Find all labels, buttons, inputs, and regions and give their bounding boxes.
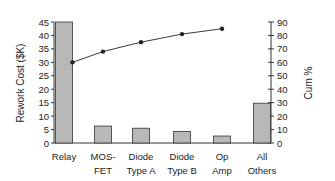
right-y-axis: 0102030405060708090 bbox=[268, 17, 288, 149]
right-tick-label: 70 bbox=[277, 43, 288, 54]
right-tick-label: 30 bbox=[277, 97, 288, 108]
bar bbox=[95, 126, 112, 143]
left-tick-label: 10 bbox=[38, 111, 49, 122]
bar bbox=[254, 103, 271, 143]
line-point bbox=[101, 49, 105, 53]
left-axis-title: Rework Cost ($K) bbox=[15, 44, 26, 123]
bars bbox=[56, 22, 271, 143]
right-tick-label: 0 bbox=[277, 138, 282, 149]
x-axis-labels: RelayMOS-FETDiodeType ADiodeType BOpAmpA… bbox=[52, 151, 277, 176]
left-tick-label: 20 bbox=[38, 84, 49, 95]
category-label: Amp bbox=[212, 165, 232, 176]
category-label: FET bbox=[94, 165, 112, 176]
line-point bbox=[220, 27, 224, 31]
left-tick-label: 30 bbox=[38, 57, 49, 68]
right-tick-label: 40 bbox=[277, 84, 288, 95]
right-tick-label: 80 bbox=[277, 30, 288, 41]
bar bbox=[133, 128, 150, 143]
left-tick-label: 5 bbox=[44, 124, 49, 135]
bar bbox=[174, 131, 191, 143]
left-y-axis: 051015202530354045 bbox=[38, 17, 271, 149]
right-tick-label: 10 bbox=[277, 124, 288, 135]
left-tick-label: 45 bbox=[38, 17, 49, 28]
category-label: Diode bbox=[129, 151, 154, 162]
cumulative-line bbox=[70, 27, 224, 65]
left-tick-label: 25 bbox=[38, 70, 49, 81]
left-tick-label: 15 bbox=[38, 97, 49, 108]
category-label: Relay bbox=[52, 151, 77, 162]
right-tick-label: 50 bbox=[277, 70, 288, 81]
category-label: Others bbox=[248, 165, 277, 176]
left-tick-label: 40 bbox=[38, 30, 49, 41]
category-label: MOS- bbox=[91, 151, 116, 162]
pareto-chart: 051015202530354045 0102030405060708090 R… bbox=[0, 0, 335, 181]
right-tick-label: 20 bbox=[277, 111, 288, 122]
line-point bbox=[180, 32, 184, 36]
category-label: Type B bbox=[167, 165, 197, 176]
category-label: Type A bbox=[126, 165, 156, 176]
left-tick-label: 35 bbox=[38, 43, 49, 54]
left-tick-label: 0 bbox=[44, 138, 49, 149]
category-label: Op bbox=[216, 151, 229, 162]
line-point bbox=[70, 60, 74, 64]
bar bbox=[214, 136, 231, 143]
category-label: All bbox=[257, 151, 268, 162]
right-axis-title: Cum % bbox=[303, 67, 314, 100]
line-point bbox=[139, 40, 143, 44]
right-tick-label: 60 bbox=[277, 57, 288, 68]
bar bbox=[56, 22, 73, 143]
right-tick-label: 90 bbox=[277, 17, 288, 28]
category-label: Diode bbox=[170, 151, 195, 162]
